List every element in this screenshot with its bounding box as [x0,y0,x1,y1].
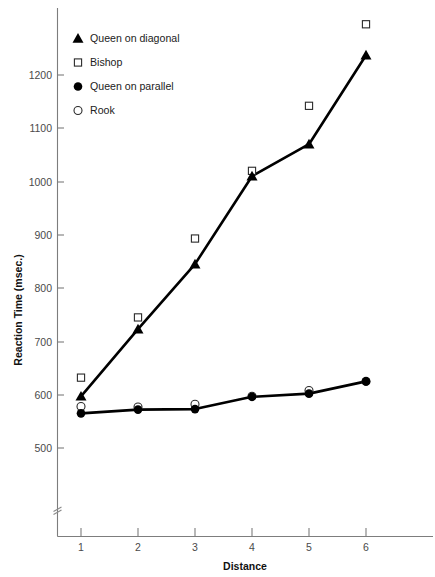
legend-label: Queen on parallel [90,80,174,92]
reaction-time-scatter-chart: 1200 1100 1000 900 800 700 600 500 1 2 3… [0,0,435,577]
data-series [75,50,371,401]
data-point [305,389,314,398]
x-tick-label: 5 [306,541,312,553]
x-tick-label: 6 [363,541,369,553]
legend-item: Rook [74,104,115,116]
data-point [248,393,257,402]
trend-line [81,55,366,396]
y-tick-label: 700 [34,336,52,348]
data-point [191,235,198,242]
data-point [77,409,86,418]
y-tick-marks [58,75,65,448]
data-series [77,21,369,382]
legend-marker-filled-circle [74,82,83,91]
x-tick-label: 4 [249,541,255,553]
y-tick-label: 500 [34,442,52,454]
data-series [77,377,370,411]
data-point [77,374,84,381]
y-tick-labels: 1200 1100 1000 900 800 700 600 500 [29,69,53,454]
legend-item: Queen on diagonal [72,32,179,44]
legend-marker-filled-triangle [72,33,83,43]
data-point [362,377,371,386]
x-tick-label: 3 [192,541,198,553]
legend-label: Rook [90,104,115,116]
x-tick-label: 1 [78,541,84,553]
y-tick-label: 1200 [29,69,53,81]
y-tick-label: 800 [34,282,52,294]
data-point [362,21,369,28]
legend-item: Bishop [74,56,122,68]
legend-label: Queen on diagonal [90,32,180,44]
legend-marker-open-square [74,59,81,66]
data-point [134,405,143,414]
x-tick-labels: 1 2 3 4 5 6 [78,541,369,553]
x-axis-title: Distance [223,560,267,572]
legend-marker-open-circle [74,107,82,115]
y-axis-title: Reaction Time (msec.) [12,254,24,365]
y-tick-label: 1000 [29,176,53,188]
trend-line [81,381,366,413]
chart-legend: Queen on diagonalBishopQueen on parallel… [72,32,179,116]
y-tick-label: 1100 [29,122,52,134]
data-point [134,314,141,321]
legend-item: Queen on parallel [74,80,174,92]
legend-label: Bishop [90,56,122,68]
chart-container: 1200 1100 1000 900 800 700 600 500 1 2 3… [0,0,435,577]
data-point [191,405,200,414]
x-tick-marks [81,528,366,537]
data-point [360,50,371,60]
x-tick-label: 2 [135,541,141,553]
data-point [305,102,312,109]
y-tick-label: 900 [34,229,52,241]
y-tick-label: 600 [34,389,52,401]
